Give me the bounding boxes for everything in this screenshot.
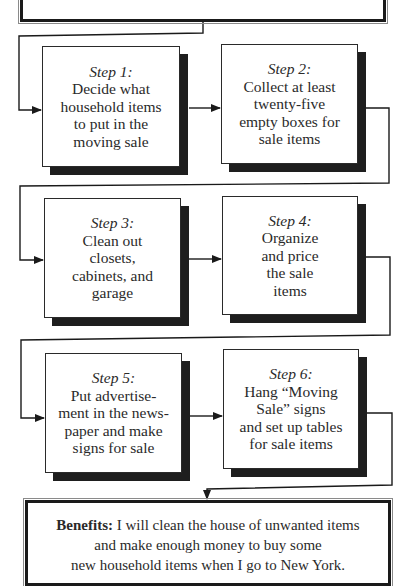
benefits-box: Benefits: I will clean the house of unwa… bbox=[25, 500, 391, 586]
step-5-line-3: paper and make bbox=[64, 422, 162, 440]
step-6-line-4: for sale items bbox=[249, 435, 333, 453]
step-2-line-2: twenty-five bbox=[254, 95, 325, 113]
step-3-box: Step 3: Clean out closets, cabinets, and… bbox=[44, 198, 181, 318]
step-6-line-1: Hang “Moving bbox=[244, 383, 337, 401]
step-6-line-2: Sale” signs bbox=[256, 400, 325, 418]
step-1-box: Step 1: Decide what household items to p… bbox=[42, 46, 180, 167]
step-4-box: Step 4: Organize and price the sale item… bbox=[222, 196, 358, 315]
step-1-line-3: to put in the bbox=[74, 115, 148, 133]
step-4-title: Step 4: bbox=[268, 212, 311, 230]
benefits-line-2: and make enough money to buy some bbox=[28, 535, 388, 555]
step-6-title: Step 6: bbox=[269, 365, 312, 383]
step-4-line-2: and price bbox=[261, 247, 318, 265]
step-2-line-1: Collect at least bbox=[243, 78, 335, 96]
step-5: Step 5: Put advertise- ment in the news-… bbox=[45, 353, 182, 473]
step-4-line-3: the sale bbox=[267, 264, 314, 282]
step-4: Step 4: Organize and price the sale item… bbox=[222, 196, 358, 315]
step-1-title: Step 1: bbox=[89, 63, 132, 81]
step-1-line-1: Decide what bbox=[72, 80, 150, 98]
benefits-line-3: new household items when I go to New Yor… bbox=[28, 555, 388, 575]
step-5-line-2: ment in the news- bbox=[58, 404, 169, 422]
step-3-line-4: garage bbox=[92, 284, 133, 302]
step-2: Step 2: Collect at least twenty-five emp… bbox=[221, 44, 358, 164]
step-2-title: Step 2: bbox=[268, 60, 311, 78]
step-1: Step 1: Decide what household items to p… bbox=[42, 46, 180, 167]
step-3-title: Step 3: bbox=[91, 214, 134, 232]
benefits-line-1-text: I will clean the house of unwanted items bbox=[113, 517, 360, 533]
step-2-line-4: sale items bbox=[259, 130, 321, 148]
benefits-text: Benefits: I will clean the house of unwa… bbox=[28, 515, 388, 575]
step-3-line-2: closets, bbox=[89, 249, 135, 267]
step-6-line-3: and set up tables bbox=[240, 418, 343, 436]
step-1-line-2: household items bbox=[60, 98, 161, 116]
step-5-box: Step 5: Put advertise- ment in the news-… bbox=[45, 353, 182, 473]
benefits-label: Benefits: bbox=[56, 517, 113, 533]
top-frame bbox=[20, 0, 386, 22]
step-3: Step 3: Clean out closets, cabinets, and… bbox=[44, 198, 181, 318]
step-6: Step 6: Hang “Moving Sale” signs and set… bbox=[223, 349, 359, 469]
step-3-line-1: Clean out bbox=[83, 232, 143, 250]
step-5-title: Step 5: bbox=[92, 369, 135, 387]
step-3-line-3: cabinets, and bbox=[72, 267, 153, 285]
step-4-line-1: Organize bbox=[262, 229, 319, 247]
step-5-line-1: Put advertise- bbox=[71, 387, 157, 405]
step-2-box: Step 2: Collect at least twenty-five emp… bbox=[221, 44, 358, 164]
step-6-box: Step 6: Hang “Moving Sale” signs and set… bbox=[223, 349, 359, 469]
benefits-line-1: Benefits: I will clean the house of unwa… bbox=[28, 515, 388, 535]
step-2-line-3: empty boxes for bbox=[239, 113, 340, 131]
step-1-line-4: moving sale bbox=[73, 133, 148, 151]
step-4-line-4: items bbox=[273, 282, 307, 300]
step-5-line-4: signs for sale bbox=[73, 439, 155, 457]
